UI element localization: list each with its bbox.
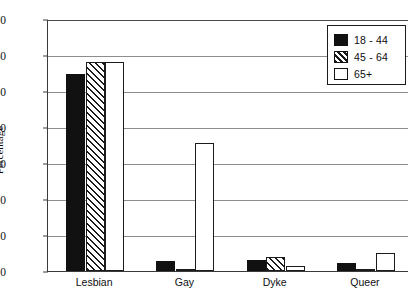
legend-label: 45 - 64 bbox=[354, 51, 388, 63]
y-tick-mark bbox=[43, 272, 48, 273]
y-tick-mark bbox=[43, 56, 48, 57]
bar bbox=[337, 263, 356, 271]
bar bbox=[195, 143, 214, 271]
bar bbox=[66, 74, 85, 271]
y-tick-label: 70 bbox=[0, 14, 6, 26]
legend-item: 18 - 44 bbox=[334, 31, 405, 48]
y-tick-label: 30 bbox=[0, 158, 6, 170]
legend-swatch-18-44 bbox=[334, 34, 348, 46]
bar bbox=[176, 269, 195, 271]
legend-label: 18 - 44 bbox=[354, 34, 388, 46]
y-tick-label: 40 bbox=[0, 122, 6, 134]
legend-swatch-65-plus bbox=[334, 68, 348, 80]
bar bbox=[266, 257, 285, 271]
bar bbox=[86, 62, 105, 271]
y-tick-label: 10 bbox=[0, 230, 6, 242]
legend: 18 - 44 45 - 64 65+ bbox=[327, 25, 406, 85]
y-tick-mark bbox=[43, 128, 48, 129]
y-tick-mark bbox=[43, 200, 48, 201]
bar bbox=[376, 253, 395, 271]
bar bbox=[356, 269, 375, 271]
legend-item: 65+ bbox=[334, 65, 405, 82]
legend-label: 65+ bbox=[354, 68, 372, 80]
y-tick-label: 60 bbox=[0, 50, 6, 62]
x-tick-label: Dyke bbox=[263, 276, 287, 288]
y-tick-label: 20 bbox=[0, 194, 6, 206]
y-tick-mark bbox=[43, 92, 48, 93]
legend-swatch-45-64 bbox=[334, 51, 348, 63]
y-tick-label: 0 bbox=[0, 266, 6, 278]
y-tick-mark bbox=[43, 20, 48, 21]
y-tick-mark bbox=[43, 236, 48, 237]
bar bbox=[247, 260, 266, 271]
gridline bbox=[48, 20, 408, 21]
y-tick-label: 50 bbox=[0, 86, 6, 98]
bar bbox=[105, 62, 124, 271]
bar-chart: Percentage 010203040506070 LesbianGayDyk… bbox=[0, 0, 420, 299]
y-tick-mark bbox=[43, 164, 48, 165]
bar bbox=[286, 266, 305, 271]
x-tick-label: Gay bbox=[175, 276, 194, 288]
x-tick-label: Lesbian bbox=[76, 276, 113, 288]
bar bbox=[156, 261, 175, 271]
x-tick-label: Queer bbox=[350, 276, 379, 288]
legend-item: 45 - 64 bbox=[334, 48, 405, 65]
